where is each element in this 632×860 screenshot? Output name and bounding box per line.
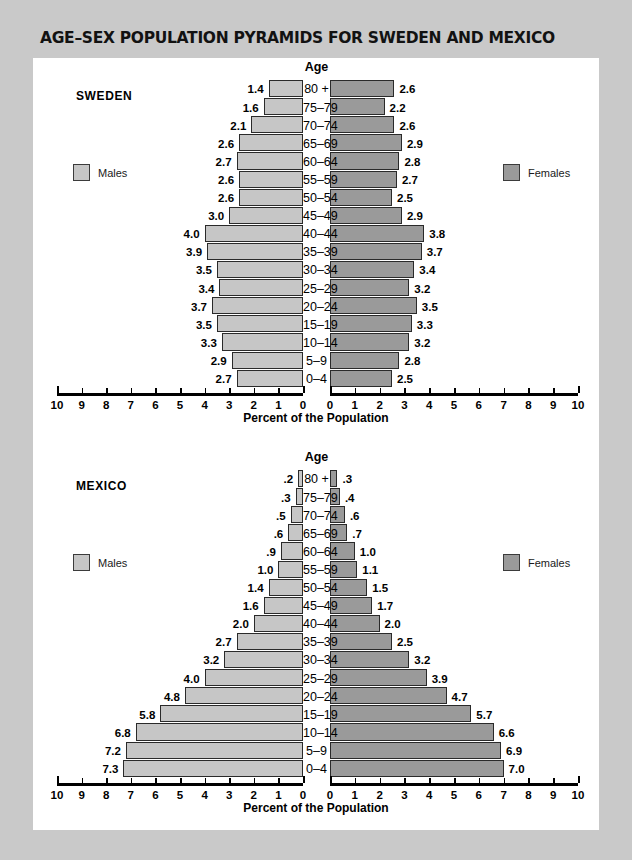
bar-value-female: 7.0 (509, 764, 525, 776)
axis-tick (528, 778, 530, 783)
axis-tick-label: 5 (444, 789, 464, 801)
bar-female (330, 352, 399, 369)
axis-tick (578, 386, 580, 393)
bar-value-female: 2.8 (404, 157, 420, 169)
bar-value-female: 3.2 (414, 338, 430, 350)
poster-page: AGE–SEX POPULATION PYRAMIDS FOR SWEDEN A… (0, 0, 632, 860)
bar-value-male: 4.0 (184, 229, 200, 241)
axis-tick-label: 0 (293, 399, 313, 411)
axis-tick-label: 9 (72, 399, 92, 411)
bar-male (229, 207, 303, 224)
axis-tick-label: 0 (293, 789, 313, 801)
poster-title-bar: AGE–SEX POPULATION PYRAMIDS FOR SWEDEN A… (40, 29, 600, 51)
axis-line (57, 393, 303, 396)
axis-tick (330, 386, 332, 393)
bar-value-female: .4 (345, 493, 355, 505)
age-group-label: 70–74 (303, 120, 330, 133)
axis-tick (155, 388, 157, 393)
axis-tick-label: 4 (419, 399, 439, 411)
axis-tick-label: 9 (543, 399, 563, 411)
bar-value-female: 2.0 (385, 619, 401, 631)
page-title: AGE–SEX POPULATION PYRAMIDS FOR SWEDEN A… (40, 29, 600, 47)
axis-tick (553, 388, 555, 393)
pyramid-sweden: SWEDEN Males Females Age1.42.680 +1.62.2… (33, 58, 599, 418)
age-group-label: 40–44 (303, 618, 330, 631)
axis-tick (82, 388, 84, 393)
bar-male (232, 352, 303, 369)
axis-tick (454, 388, 456, 393)
bar-value-female: 2.6 (399, 121, 415, 133)
axis-line (57, 783, 303, 786)
axis-tick-label: 0 (320, 399, 340, 411)
bar-value-female: 1.5 (372, 583, 388, 595)
bar-value-female: 4.7 (452, 692, 468, 704)
bar-male (239, 189, 303, 206)
age-group-label: 80 + (303, 473, 330, 486)
age-group-label: 30–34 (303, 654, 330, 667)
axis-tick (355, 388, 357, 393)
age-group-label: 65–69 (303, 138, 330, 151)
age-group-label: 35–39 (303, 636, 330, 649)
bar-female (330, 723, 494, 740)
age-column-header: Age (303, 450, 330, 464)
bar-value-female: 2.6 (399, 84, 415, 96)
age-column-header: Age (303, 60, 330, 74)
axis-tick (180, 778, 182, 783)
axis-tick (355, 778, 357, 783)
bar-male (185, 687, 303, 704)
bar-value-female: 2.9 (407, 139, 423, 151)
bar-male (237, 370, 303, 387)
bar-value-male: 2.7 (216, 374, 232, 386)
age-group-label: 30–34 (303, 264, 330, 277)
bar-value-male: .2 (284, 474, 294, 486)
bar-value-female: 3.8 (429, 229, 445, 241)
bar-male (291, 506, 303, 523)
bar-male (205, 669, 303, 686)
bar-value-male: 6.8 (115, 728, 131, 740)
age-group-label: 5–9 (303, 745, 330, 758)
bar-value-male: 1.0 (257, 565, 273, 577)
bar-female (330, 279, 409, 296)
bar-female (330, 297, 417, 314)
axis-tick-label: 7 (121, 789, 141, 801)
bar-value-female: 5.7 (476, 710, 492, 722)
bar-male (269, 80, 303, 97)
bar-female (330, 315, 412, 332)
age-group-label: 65–69 (303, 528, 330, 541)
bar-female (330, 80, 394, 97)
bar-male (237, 152, 303, 169)
axis-tick (454, 778, 456, 783)
axis-tick-label: 10 (47, 789, 67, 801)
bar-value-female: 2.2 (390, 103, 406, 115)
axis-tick (278, 778, 280, 783)
axis-line (330, 393, 578, 396)
age-group-label: 15–19 (303, 709, 330, 722)
age-group-label: 60–64 (303, 156, 330, 169)
axis-tick-label: 10 (568, 399, 588, 411)
bar-value-female: 3.2 (414, 284, 430, 296)
bar-value-male: .5 (276, 511, 286, 523)
bar-value-female: 6.9 (506, 746, 522, 758)
axis-tick (82, 778, 84, 783)
age-group-label: 75–79 (303, 492, 330, 505)
axis-tick (504, 778, 506, 783)
bar-value-female: 3.9 (432, 674, 448, 686)
bar-value-male: 2.9 (211, 356, 227, 368)
bar-female (330, 470, 337, 487)
bar-male (219, 279, 303, 296)
bar-female (330, 116, 394, 133)
bar-male (123, 760, 303, 777)
axis-tick (504, 388, 506, 393)
axis-tick-label: 7 (121, 399, 141, 411)
age-group-label: 55–59 (303, 564, 330, 577)
bar-value-male: 3.7 (191, 302, 207, 314)
axis-tick (155, 778, 157, 783)
bar-value-male: 2.6 (218, 193, 234, 205)
axis-tick-label: 8 (518, 789, 538, 801)
axis-tick (57, 776, 59, 783)
axis-tick-label: 1 (345, 789, 365, 801)
bar-value-male: 2.1 (230, 121, 246, 133)
axis-tick (254, 778, 256, 783)
bar-value-female: 3.2 (414, 655, 430, 667)
bar-male (269, 579, 303, 596)
